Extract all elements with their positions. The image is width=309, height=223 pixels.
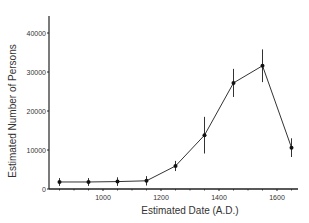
x-tick-label: 1000 xyxy=(95,194,111,201)
data-point xyxy=(116,180,120,184)
data-series xyxy=(58,49,294,186)
y-tick-label: 0 xyxy=(42,186,46,193)
data-point xyxy=(203,133,207,137)
y-tick-label: 10000 xyxy=(27,147,47,154)
y-tick-label: 20000 xyxy=(27,108,47,115)
data-point xyxy=(174,164,178,168)
y-tick-label: 40000 xyxy=(27,30,47,37)
data-point xyxy=(261,64,265,68)
y-axis-label: Estimated Number of Persons xyxy=(7,44,18,177)
data-point xyxy=(58,180,62,184)
x-tick-label: 1600 xyxy=(269,194,285,201)
x-axis-label: Estimated Date (A.D.) xyxy=(141,205,238,216)
x-tick-label: 1200 xyxy=(153,194,169,201)
data-point xyxy=(145,179,149,183)
data-point xyxy=(232,81,236,85)
x-tick-label: 1400 xyxy=(211,194,227,201)
population-chart: 0100002000030000400001000120014001600 Es… xyxy=(0,0,309,223)
y-tick-label: 30000 xyxy=(27,69,47,76)
data-point xyxy=(87,180,91,184)
data-point xyxy=(290,146,294,150)
